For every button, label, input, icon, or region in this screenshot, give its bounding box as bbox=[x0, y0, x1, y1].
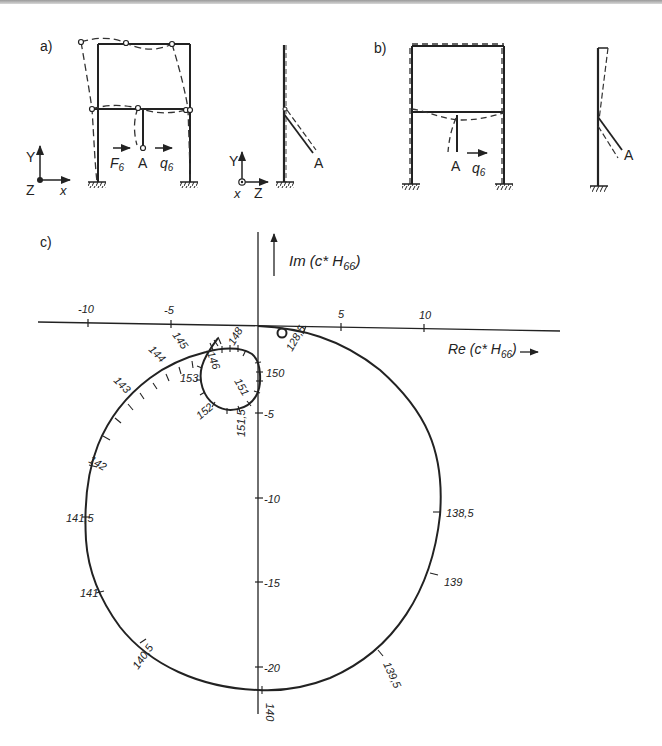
svg-text:x: x bbox=[233, 186, 241, 201]
svg-text:150: 150 bbox=[266, 367, 285, 379]
re-tick-label: 5 bbox=[338, 308, 345, 320]
svg-text:138,5: 138,5 bbox=[446, 507, 474, 519]
svg-text:151,5: 151,5 bbox=[235, 409, 247, 437]
figure-canvas: a) bbox=[0, 0, 662, 746]
svg-text:141: 141 bbox=[80, 587, 98, 599]
svg-text:145: 145 bbox=[170, 329, 191, 352]
svg-text:139: 139 bbox=[444, 576, 462, 588]
load-label: q6 bbox=[160, 155, 174, 173]
svg-text:A: A bbox=[624, 147, 634, 163]
svg-text:Y: Y bbox=[229, 153, 239, 169]
svg-text:139,5: 139,5 bbox=[381, 660, 404, 691]
re-axis-label: Re (c* H66) bbox=[448, 341, 517, 360]
point-a-label: A bbox=[451, 158, 461, 174]
svg-text:143: 143 bbox=[112, 374, 134, 396]
svg-text:Z: Z bbox=[254, 185, 263, 201]
panel-b-label: b) bbox=[374, 40, 386, 56]
im-tick-label: -10 bbox=[264, 493, 281, 505]
frame-a-side: A bbox=[276, 45, 324, 188]
coord-system-xyz: Y Z x bbox=[26, 146, 70, 198]
svg-text:151: 151 bbox=[232, 376, 252, 398]
im-tick-label: -5 bbox=[264, 408, 275, 420]
svg-text:Y: Y bbox=[26, 149, 36, 165]
im-axis-label: Im (c* H66) bbox=[289, 252, 360, 272]
panel-a-label: a) bbox=[40, 38, 52, 54]
re-tick-label: 10 bbox=[419, 309, 432, 321]
re-tick-label: -10 bbox=[78, 303, 95, 315]
svg-text:146: 146 bbox=[205, 350, 223, 372]
fixed-support-icon bbox=[402, 184, 420, 190]
panel-c-label: c) bbox=[40, 234, 52, 250]
svg-text:141,5: 141,5 bbox=[66, 512, 94, 524]
load-label: q6 bbox=[472, 160, 486, 178]
panel-a: a) bbox=[26, 38, 324, 201]
svg-text:153: 153 bbox=[180, 372, 199, 384]
svg-text:x: x bbox=[59, 183, 67, 198]
point-a-label: A bbox=[138, 155, 148, 171]
panel-b: b) A q6 A bbox=[374, 40, 634, 192]
fixed-support-icon bbox=[495, 184, 513, 190]
fixed-support-icon bbox=[88, 182, 106, 188]
re-tick-label: -5 bbox=[164, 304, 175, 316]
svg-text:Z: Z bbox=[26, 182, 35, 198]
coord-system-yz: Y x Z bbox=[229, 152, 268, 201]
svg-text:144: 144 bbox=[147, 343, 168, 364]
panel-c-nyquist-plot: c) Im (c* H66) Re (c* H66) -10 -5 5 10 -… bbox=[38, 232, 560, 722]
fixed-support-icon bbox=[180, 182, 198, 188]
im-ticks bbox=[255, 413, 263, 667]
svg-text:148: 148 bbox=[225, 324, 245, 347]
svg-text:A: A bbox=[314, 155, 324, 171]
im-tick-label: -20 bbox=[264, 662, 281, 674]
force-label: F6 bbox=[110, 155, 125, 173]
origin-marker-icon bbox=[278, 329, 287, 338]
im-tick-label: -15 bbox=[264, 577, 281, 589]
main-locus-curve bbox=[86, 326, 441, 690]
frame-b-side: A bbox=[590, 48, 634, 192]
svg-text:140: 140 bbox=[264, 703, 276, 722]
